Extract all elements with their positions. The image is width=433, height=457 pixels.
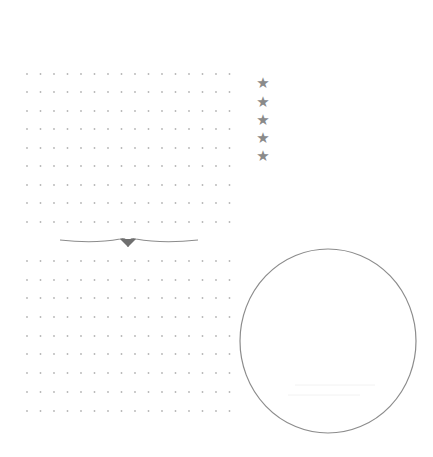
grid-dot — [134, 335, 136, 337]
grid-dot — [53, 353, 55, 355]
grid-dot — [161, 335, 163, 337]
grid-dot — [188, 353, 190, 355]
grid-dot — [175, 279, 177, 281]
grid-dot — [107, 147, 109, 149]
grid-dot — [40, 391, 42, 393]
grid-dot — [53, 372, 55, 374]
grid-dot — [215, 279, 217, 281]
grid-dot — [40, 297, 42, 299]
grid-dot — [53, 128, 55, 130]
grid-dot — [202, 260, 204, 262]
grid-dot — [121, 147, 123, 149]
grid-dot — [175, 147, 177, 149]
grid-dot — [188, 410, 190, 412]
grid-dot — [80, 202, 82, 204]
grid-dot — [229, 202, 231, 204]
grid-dot — [202, 410, 204, 412]
grid-dot — [202, 202, 204, 204]
grid-dot — [26, 335, 28, 337]
grid-dot — [161, 372, 163, 374]
grid-dot — [175, 110, 177, 112]
grid-dot — [134, 110, 136, 112]
grid-dot — [134, 147, 136, 149]
grid-dot — [80, 297, 82, 299]
grid-dot — [67, 353, 69, 355]
grid-dot — [229, 165, 231, 167]
grid-dot — [107, 297, 109, 299]
grid-dot — [40, 184, 42, 186]
grid-dot — [148, 128, 150, 130]
grid-dot — [202, 279, 204, 281]
grid-dot — [161, 202, 163, 204]
grid-dot — [161, 165, 163, 167]
star-icon: ★ — [256, 76, 270, 90]
grid-dot — [121, 279, 123, 281]
grid-dot — [148, 316, 150, 318]
grid-dot — [94, 147, 96, 149]
grid-dot — [175, 91, 177, 93]
grid-dot — [94, 353, 96, 355]
grid-dot — [53, 260, 55, 262]
grid-dot — [148, 391, 150, 393]
grid-dot — [94, 128, 96, 130]
grid-dot — [121, 202, 123, 204]
grid-dot — [80, 128, 82, 130]
grid-dot — [161, 297, 163, 299]
grid-dot — [121, 297, 123, 299]
grid-dot — [26, 372, 28, 374]
grid-dot — [107, 165, 109, 167]
grid-dot — [26, 316, 28, 318]
grid-dot — [188, 128, 190, 130]
grid-dot — [94, 110, 96, 112]
grid-dot — [94, 316, 96, 318]
grid-dot — [107, 316, 109, 318]
grid-dot — [53, 73, 55, 75]
grid-dot — [175, 260, 177, 262]
grid-dot — [40, 128, 42, 130]
grid-dot — [94, 335, 96, 337]
grid-dot — [26, 147, 28, 149]
grid-dot — [53, 184, 55, 186]
grid-dot — [148, 165, 150, 167]
grid-dot — [148, 372, 150, 374]
grid-dot — [40, 316, 42, 318]
dotted-journal-page: ★★★★★ — [0, 0, 433, 457]
grid-dot — [26, 202, 28, 204]
grid-dot — [107, 110, 109, 112]
grid-dot — [215, 260, 217, 262]
grid-dot — [107, 391, 109, 393]
grid-dot — [67, 316, 69, 318]
grid-dot — [202, 147, 204, 149]
grid-dot — [148, 221, 150, 223]
grid-dot — [94, 184, 96, 186]
grid-dot — [175, 372, 177, 374]
grid-dot — [188, 391, 190, 393]
grid-dot — [229, 410, 231, 412]
grid-dot — [175, 297, 177, 299]
grid-dot — [229, 128, 231, 130]
grid-dot — [148, 335, 150, 337]
grid-dot — [107, 260, 109, 262]
grid-dot — [53, 110, 55, 112]
grid-dot — [175, 202, 177, 204]
grid-dot — [161, 316, 163, 318]
grid-dot — [107, 221, 109, 223]
grid-dot — [215, 73, 217, 75]
grid-dot — [121, 91, 123, 93]
grid-dot — [215, 128, 217, 130]
grid-dot — [134, 372, 136, 374]
grid-dot — [53, 91, 55, 93]
grid-dot — [134, 165, 136, 167]
grid-dot — [148, 91, 150, 93]
grid-dot — [67, 260, 69, 262]
grid-dot — [175, 165, 177, 167]
grid-dot — [134, 184, 136, 186]
grid-dot — [40, 410, 42, 412]
grid-dot — [26, 184, 28, 186]
grid-dot — [40, 147, 42, 149]
grid-dot — [67, 165, 69, 167]
grid-dot — [121, 221, 123, 223]
grid-dot — [134, 221, 136, 223]
grid-dot — [229, 372, 231, 374]
grid-dot — [188, 147, 190, 149]
